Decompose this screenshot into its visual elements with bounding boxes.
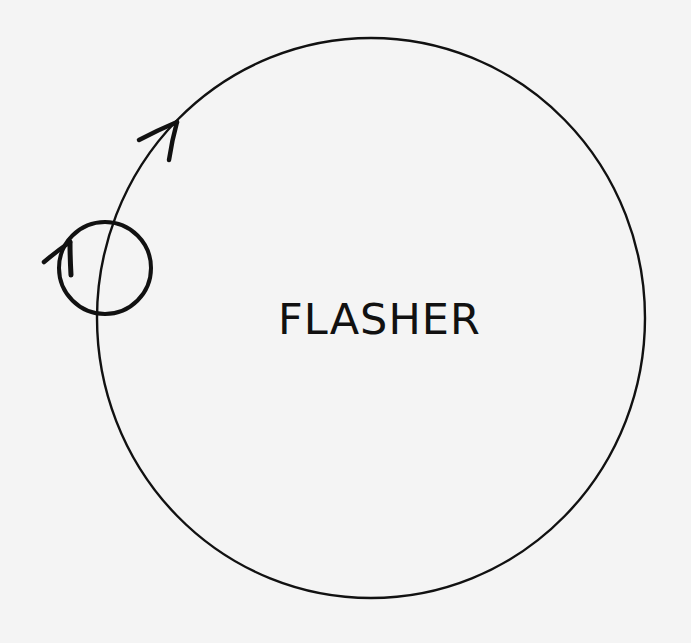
flasher-label: FLASHER bbox=[278, 298, 481, 341]
